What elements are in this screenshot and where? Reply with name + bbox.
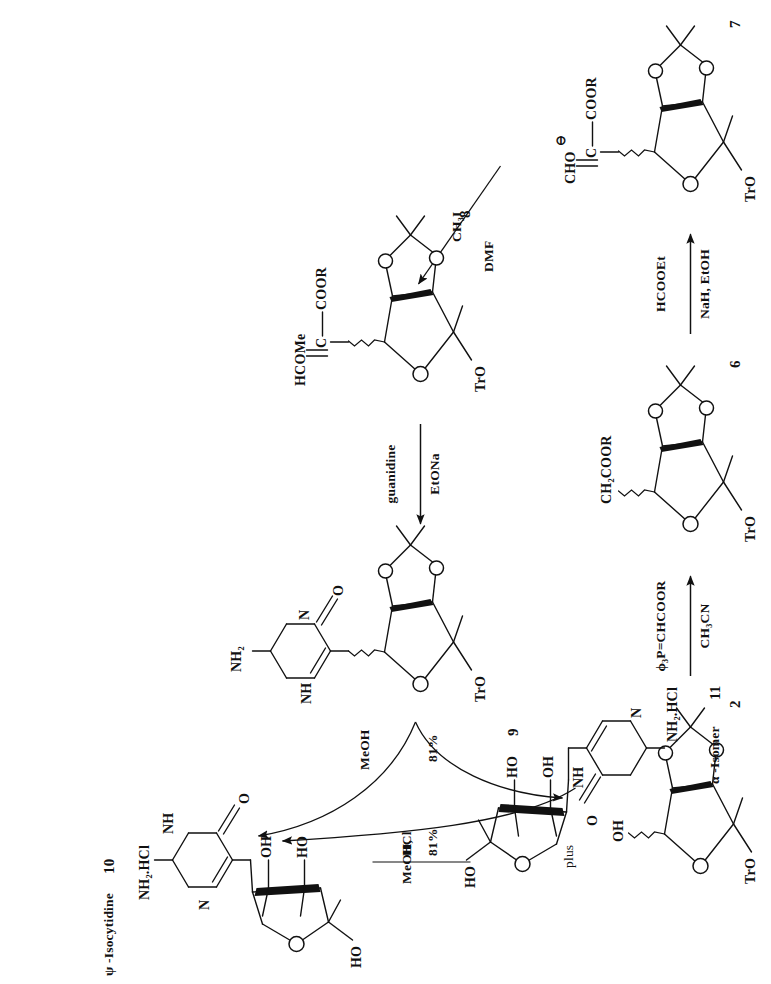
compound-8-HCOMe-label: HCOMe bbox=[292, 334, 308, 386]
compound-7-negative-charge-icon: ⊖ bbox=[552, 135, 568, 146]
compound-8-C-label: C bbox=[313, 338, 329, 348]
compound-9-structure bbox=[252, 526, 471, 692]
compound-7-C-label: C bbox=[583, 148, 599, 158]
reagent-6-to-7-top: HCOOEt bbox=[652, 226, 669, 342]
reagent-6-to-7-bottom: NaH, EtOH bbox=[696, 226, 713, 342]
compound-7-number: 7 bbox=[726, 20, 743, 28]
compound-7-TrO-label: TrO bbox=[742, 176, 758, 202]
compound-2-TrO-label: TrO bbox=[742, 858, 758, 884]
compound-8-number: 8 bbox=[456, 210, 473, 218]
arrow-9-to-10-curved bbox=[258, 722, 415, 836]
compound-11-name: α -Isomer bbox=[706, 726, 722, 784]
compound-9-TrO-label: TrO bbox=[472, 676, 488, 702]
compound-8-COOR-label: COOR bbox=[313, 267, 329, 310]
compound-10-HO-lower-label: HO bbox=[294, 836, 310, 858]
compound-9-NH2-label: NH₂ bbox=[228, 646, 244, 672]
compound-10-name: ψ -Isocytidine bbox=[100, 893, 116, 976]
compound-8-structure bbox=[306, 216, 471, 382]
compound-7-structure bbox=[576, 26, 741, 192]
compound-6-CH2COOR-label: CH₂COOR bbox=[598, 435, 614, 504]
compound-9-number: 9 bbox=[504, 728, 521, 736]
reagent-2-to-6-top: ϕ₃P=CHCOOR bbox=[652, 568, 669, 684]
compound-11-number: 11 bbox=[706, 685, 723, 700]
reagent-8-to-9-top: guanidine bbox=[382, 416, 399, 532]
reagent-9-MeOH: MeOH bbox=[356, 729, 373, 770]
reagent-11-to-10-mid: HCl bbox=[398, 831, 415, 856]
compound-11-O-label: O bbox=[584, 815, 600, 826]
compound-2-number: 2 bbox=[726, 700, 743, 708]
compound-8-TrO-label: TrO bbox=[472, 366, 488, 392]
compound-11-NH2HCl-label: NH₂.HCl bbox=[664, 687, 680, 742]
compound-9-N-label: N bbox=[296, 610, 312, 620]
compound-10-N-label: N bbox=[196, 900, 212, 910]
compound-9-O-label: O bbox=[330, 585, 346, 596]
compound-10-OH-upper-label: OH bbox=[258, 836, 274, 858]
compound-2-structure bbox=[628, 708, 751, 874]
compound-6-TrO-label: TrO bbox=[742, 516, 758, 542]
plus-label: plus bbox=[560, 845, 577, 868]
reagent-7-to-8-bottom: DMF bbox=[480, 241, 497, 272]
compound-7-CHO-label: CHO bbox=[562, 152, 578, 185]
compound-10-O-label: O bbox=[236, 793, 252, 804]
compound-10-number: 10 bbox=[100, 859, 117, 874]
compound-10-structure bbox=[154, 805, 352, 952]
compound-9-NH-label: NH bbox=[298, 683, 314, 704]
reaction-scheme: TrO OH 2 ϕ₃P=CHCOOR CH₃CN TrO CH₂COOR 6 … bbox=[0, 0, 771, 984]
reagent-11-to-10-yield: 81% bbox=[424, 828, 441, 856]
compound-6-structure bbox=[618, 366, 741, 532]
reagent-8-to-9-bottom: EtONa bbox=[426, 416, 443, 532]
compound-11-HO-primary-label: HO bbox=[462, 866, 478, 888]
compound-2-OH-label: OH bbox=[610, 820, 626, 842]
compound-10-HO-primary-label: HO bbox=[348, 946, 364, 968]
compound-10-NH2HCl-label: NH₂.HCl bbox=[136, 845, 152, 900]
compound-7-COOR-label: COOR bbox=[583, 77, 599, 120]
scheme-rotation-wrapper: TrO OH 2 ϕ₃P=CHCOOR CH₃CN TrO CH₂COOR 6 … bbox=[0, 0, 771, 984]
compound-11-NH-label: NH bbox=[570, 767, 586, 788]
compound-11-OH-upper-label: OH bbox=[540, 756, 556, 778]
reagent-9-yield: 81% bbox=[424, 734, 441, 762]
compound-6-number: 6 bbox=[726, 360, 743, 368]
compound-11-N-label: N bbox=[628, 708, 644, 718]
compound-11-HO-lower-label: HO bbox=[504, 756, 520, 778]
reagent-2-to-6-bottom: CH₃CN bbox=[696, 568, 713, 684]
compound-10-NH-label: NH bbox=[160, 813, 176, 834]
